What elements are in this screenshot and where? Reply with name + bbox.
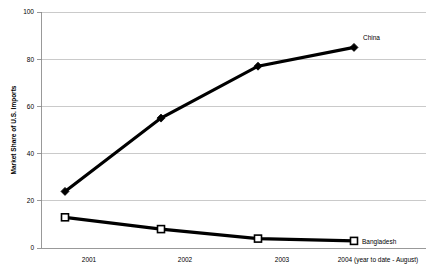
x-tick-label-2001: 2001 [82,256,97,263]
line-chart: 100 80 60 40 20 0 Market Share of U.S. I… [0,0,431,269]
x-tick-label-2002: 2002 [178,256,193,263]
bangladesh-marker-2003 [255,235,262,242]
y-tick-label-40: 40 [27,150,35,157]
bangladesh-marker-2004 [351,237,358,244]
x-tick-label-2004: 2004 (year to date - August) [338,256,419,264]
y-tick-label-20: 20 [27,197,35,204]
x-tick-label-2003: 2003 [275,256,290,263]
y-tick-label-100: 100 [23,8,34,15]
china-series-label: China [363,34,380,41]
y-tick-label-80: 80 [27,56,35,63]
y-tick-label-0: 0 [30,244,34,251]
bangladesh-series-label: Bangladesh [362,238,397,246]
chart-container: 100 80 60 40 20 0 Market Share of U.S. I… [0,0,431,269]
y-axis-title: Market Share of U.S. Imports [10,85,18,174]
y-tick-label-60: 60 [27,103,35,110]
bangladesh-marker-2002 [158,226,165,233]
bangladesh-marker-2001 [62,214,69,221]
